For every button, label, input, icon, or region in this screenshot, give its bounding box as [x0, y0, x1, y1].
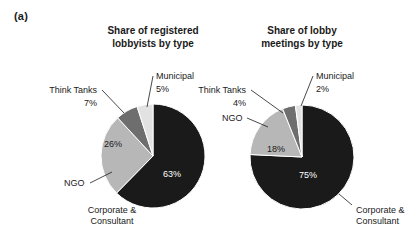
figure-panel-a: (a) Share of registered lobbyists by typ…: [0, 0, 416, 243]
slice-value-ngo-left: 26%: [104, 139, 122, 149]
slice-value-ngo-right: 18%: [267, 144, 285, 154]
leader-line-think-tanks-left: [102, 90, 124, 113]
callout-municipal-right-value: 2%: [316, 84, 329, 94]
callout-municipal-left: Municipal: [156, 71, 194, 81]
callout-municipal-left-value: 5%: [156, 84, 169, 94]
callout-ngo-left: NGO: [64, 178, 85, 188]
callout-think-tanks-right-value: 4%: [233, 98, 246, 108]
callout-corporate-right-line1: Corporate &: [356, 205, 405, 215]
leader-line-municipal-right: [301, 76, 313, 106]
callout-corporate-left-line2: Consultant: [90, 216, 134, 226]
callout-corporate-right-line2: Consultant: [356, 216, 400, 226]
leader-line-think-tanks-right: [251, 90, 283, 113]
callout-municipal-right: Municipal: [316, 71, 354, 81]
slice-value-corporate-right: 75%: [299, 170, 317, 180]
pie-chart-registered-lobbyists: [101, 104, 205, 208]
callout-think-tanks-right: Think Tanks: [198, 85, 246, 95]
callout-think-tanks-left: Think Tanks: [49, 85, 97, 95]
callout-corporate-left-line1: Corporate &: [88, 205, 137, 215]
callout-think-tanks-left-value: 7%: [84, 98, 97, 108]
callout-ngo-right: NGO: [222, 113, 243, 123]
pie-chart-lobby-meetings: [250, 105, 354, 209]
leader-line-corporate-right: [339, 194, 352, 205]
leader-line-municipal-left: [147, 76, 153, 107]
slice-value-corporate-left: 63%: [163, 169, 181, 179]
pie-charts-svg: Corporate & Consultant NGO Think Tanks 7…: [0, 0, 416, 243]
